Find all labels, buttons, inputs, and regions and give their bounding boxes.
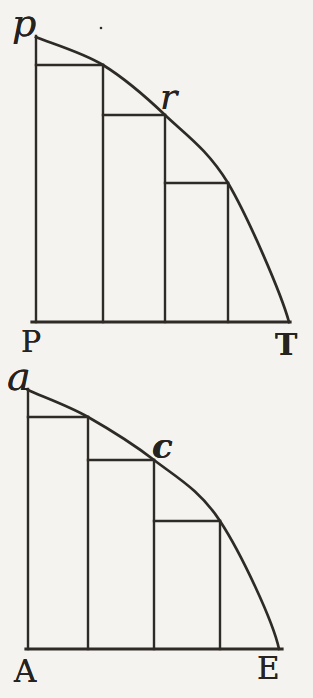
ink-speck [100,27,103,30]
label-E: E [257,653,280,684]
label-c: c [152,429,173,463]
label-T: T [275,330,297,360]
diagram-canvas [0,0,313,698]
scanned-page: p r P T a c A E [0,0,313,698]
figure-upper-drawing [32,27,290,322]
label-A: A [14,656,36,687]
label-r: r [160,79,177,115]
label-a: a [7,356,31,396]
label-p: p [12,4,36,42]
